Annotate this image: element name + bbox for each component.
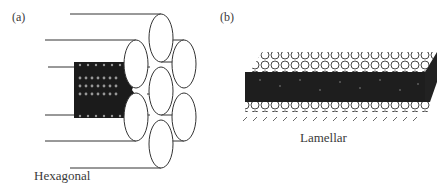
- lamellar-phase-diagram: [0, 0, 441, 191]
- lipid-bilayer-stack-icon: [243, 52, 437, 121]
